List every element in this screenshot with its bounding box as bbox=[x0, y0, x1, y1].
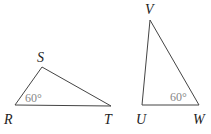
triangle-uvw: V U W 60° bbox=[136, 2, 206, 127]
angle-label-r: 60° bbox=[25, 91, 42, 105]
vertex-label-v: V bbox=[145, 2, 155, 17]
angle-label-w: 60° bbox=[170, 90, 187, 104]
vertex-label-w: W bbox=[193, 112, 206, 127]
vertex-label-t: T bbox=[104, 112, 113, 127]
vertex-label-u: U bbox=[136, 112, 147, 127]
vertex-label-s: S bbox=[37, 50, 44, 65]
triangle-rst: S R T 60° bbox=[3, 50, 113, 127]
diagram-canvas: S R T 60° V U W 60° bbox=[0, 0, 211, 134]
vertex-label-r: R bbox=[3, 112, 13, 127]
